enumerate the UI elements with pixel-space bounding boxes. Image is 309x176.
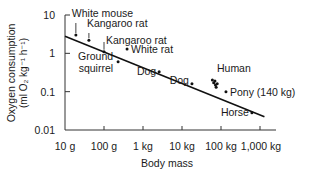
data-point xyxy=(216,82,219,85)
point-annotation: Dog xyxy=(170,74,189,86)
x-tick-label: 100 kg xyxy=(205,140,237,152)
y-tick-label: 10 xyxy=(43,9,55,21)
annotations: White mouseKangaroo ratKangaroo ratWhite… xyxy=(72,7,295,118)
y-tick-label: 1 xyxy=(49,47,55,59)
x-tick-label: 1,000 kg xyxy=(241,140,281,152)
point-annotation: Ground xyxy=(78,50,113,62)
point-annotation: White rat xyxy=(131,43,173,55)
data-point xyxy=(158,70,161,73)
y-axis-label-line2: (ml O₂ kg⁻¹ h⁻¹) xyxy=(18,38,29,108)
data-point xyxy=(190,82,193,85)
y-tick-label: 0.01 xyxy=(35,124,56,136)
y-axis-label-line1: Oxygen consumption xyxy=(5,24,17,123)
data-point xyxy=(74,34,77,37)
data-point xyxy=(224,90,227,93)
x-tick-label: 100 g xyxy=(91,140,117,152)
data-point xyxy=(211,79,214,82)
x-tick-label: 1 kg xyxy=(133,140,153,152)
x-tick-label: 10 kg xyxy=(169,140,195,152)
data-point xyxy=(213,79,216,82)
point-annotation: Human xyxy=(217,62,251,74)
point-annotation: Dog xyxy=(137,65,156,77)
data-point xyxy=(250,111,253,114)
point-annotation: Horse xyxy=(221,106,249,118)
point-annotation: Pony (140 kg) xyxy=(230,86,295,98)
tick-labels: 10 g100 g1 kg10 kg100 kg1,000 kg1010.10.… xyxy=(35,9,282,152)
data-point xyxy=(117,60,120,63)
point-annotation: squirrel xyxy=(79,62,113,74)
x-tick-label: 10 g xyxy=(55,140,76,152)
data-point xyxy=(87,39,90,42)
x-axis-label: Body mass xyxy=(141,157,193,169)
chart: 10 g100 g1 kg10 kg100 kg1,000 kg1010.10.… xyxy=(0,0,309,176)
data-point xyxy=(126,47,129,50)
y-tick-label: 0.1 xyxy=(40,86,55,98)
data-point xyxy=(215,86,218,89)
point-annotation: Kangaroo rat xyxy=(87,17,148,29)
